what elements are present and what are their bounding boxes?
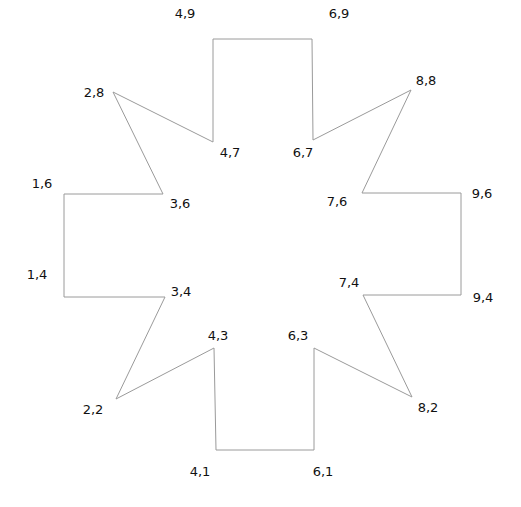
vertex-label: 4,3 (208, 329, 229, 342)
vertex-label: 6,1 (313, 465, 334, 478)
vertex-label: 6,7 (293, 146, 314, 159)
vertex-label: 2,8 (84, 86, 105, 99)
vertex-label: 8,8 (416, 74, 437, 87)
vertex-label: 6,9 (329, 7, 350, 20)
star-polygon-outline (64, 39, 461, 450)
polygon-diagram: 4,96,96,78,87,69,69,47,48,26,36,14,14,32… (0, 0, 521, 507)
vertex-label: 4,9 (175, 7, 196, 20)
vertex-label: 6,3 (288, 329, 309, 342)
vertex-label: 7,4 (339, 276, 360, 289)
vertex-label: 3,4 (171, 285, 192, 298)
vertex-label: 3,6 (170, 197, 191, 210)
vertex-label: 9,6 (472, 187, 493, 200)
vertex-label: 9,4 (473, 291, 494, 304)
vertex-label: 2,2 (83, 403, 104, 416)
polygon-svg (0, 0, 521, 507)
vertex-label: 1,6 (32, 177, 53, 190)
vertex-label: 7,6 (327, 195, 348, 208)
vertex-label: 4,7 (220, 146, 241, 159)
vertex-label: 4,1 (190, 465, 211, 478)
vertex-label: 8,2 (418, 401, 439, 414)
vertex-label: 1,4 (27, 268, 48, 281)
